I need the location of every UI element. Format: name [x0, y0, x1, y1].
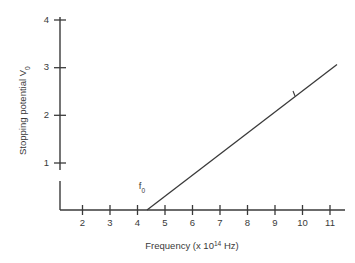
x-tick-label-9: 9: [272, 217, 277, 228]
x-axis-tick-labels: 2 3 4 5 6 7 8 9 10 11: [80, 217, 335, 228]
x-tick-label-10: 10: [297, 217, 308, 228]
x-tick-label-4: 4: [135, 217, 140, 228]
x-tick-label-2: 2: [80, 217, 85, 228]
x-axis-title-lead: Frequency (x 10: [145, 240, 214, 251]
y-axis-title-subscript: 0: [24, 66, 31, 70]
y-tick-label-1: 1: [44, 157, 49, 168]
photoelectric-chart: 4 3 2 1 2 3 4 5 6 7 8 9 10: [0, 0, 355, 263]
y-axis-title-lead: Stopping potential V: [17, 69, 28, 155]
threshold-frequency-subscript: 0: [141, 187, 145, 194]
x-axis-title: Frequency (x 1014 Hz): [145, 240, 238, 252]
y-axis-tick-labels: 4 3 2 1: [44, 14, 49, 168]
y-tick-label-2: 2: [44, 109, 49, 120]
x-tick-label-5: 5: [162, 217, 167, 228]
y-tick-label-3: 3: [44, 61, 49, 72]
threshold-frequency-label: f0: [139, 180, 146, 194]
data-series-line: [147, 65, 337, 211]
x-tick-label-7: 7: [217, 217, 222, 228]
x-tick-label-8: 8: [245, 217, 250, 228]
x-axis-title-trail: Hz): [221, 240, 238, 251]
y-axis-title: Stopping potential V0: [17, 66, 31, 155]
x-tick-label-11: 11: [325, 217, 335, 228]
x-tick-label-3: 3: [107, 217, 112, 228]
y-tick-label-4: 4: [44, 14, 49, 25]
x-tick-label-6: 6: [190, 217, 195, 228]
chart-svg: 4 3 2 1 2 3 4 5 6 7 8 9 10: [0, 0, 355, 263]
data-point-marker: [293, 91, 295, 96]
